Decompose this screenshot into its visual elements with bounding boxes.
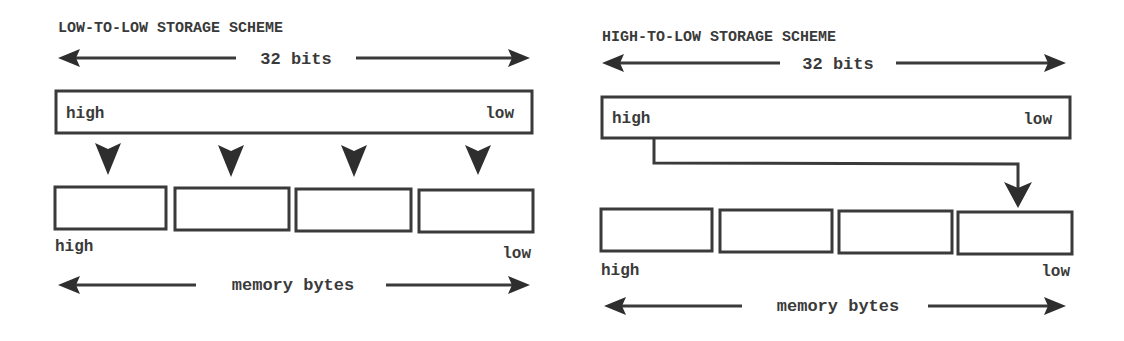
- memory-byte: [958, 212, 1072, 254]
- storage-scheme-diagram: LOW-TO-LOW STORAGE SCHEME 32 bits high l…: [0, 0, 1124, 341]
- left-bits-label: 32 bits: [260, 50, 331, 69]
- arrow-down-icon: [341, 145, 367, 177]
- left-byte-arrows: [95, 143, 491, 177]
- right-register-high-label: high: [612, 110, 650, 128]
- arrow-down-icon: [465, 145, 491, 175]
- right-bytes-high-label: high: [601, 262, 639, 280]
- right-memory-bytes: high low: [601, 209, 1072, 281]
- left-memory-arrow: memory bytes: [58, 276, 530, 295]
- left-bytes-high-label: high: [55, 238, 93, 256]
- high-to-low-panel: HIGH-TO-LOW STORAGE SCHEME 32 bits high …: [601, 29, 1072, 316]
- low-to-low-panel: LOW-TO-LOW STORAGE SCHEME 32 bits high l…: [55, 20, 533, 295]
- memory-byte: [296, 189, 411, 231]
- arrow-down-icon: [218, 145, 244, 177]
- left-register-high-label: high: [66, 105, 104, 123]
- right-bits-width-arrow: 32 bits: [602, 54, 1066, 74]
- right-title: HIGH-TO-LOW STORAGE SCHEME: [602, 29, 836, 46]
- right-register-low-label: low: [1023, 111, 1052, 129]
- left-register-low-label: low: [485, 105, 514, 123]
- left-title: LOW-TO-LOW STORAGE SCHEME: [58, 20, 283, 37]
- left-memory-bytes: high low: [55, 187, 533, 263]
- right-memory-label: memory bytes: [777, 297, 899, 316]
- left-register: high low: [56, 91, 532, 133]
- left-memory-label: memory bytes: [232, 276, 354, 295]
- left-bytes-low-label: low: [502, 245, 531, 263]
- right-elbow-connector: [654, 138, 1032, 208]
- left-bits-width-arrow: 32 bits: [58, 49, 530, 69]
- right-register: high low: [602, 97, 1070, 138]
- memory-byte: [55, 187, 166, 229]
- memory-byte: [175, 188, 289, 230]
- arrow-down-icon: [95, 143, 121, 175]
- memory-byte: [419, 190, 533, 232]
- right-bytes-low-label: low: [1041, 263, 1070, 281]
- right-memory-arrow: memory bytes: [604, 297, 1066, 316]
- memory-byte: [601, 209, 712, 251]
- memory-byte: [839, 211, 952, 253]
- right-bits-label: 32 bits: [802, 55, 873, 74]
- memory-byte: [720, 210, 832, 252]
